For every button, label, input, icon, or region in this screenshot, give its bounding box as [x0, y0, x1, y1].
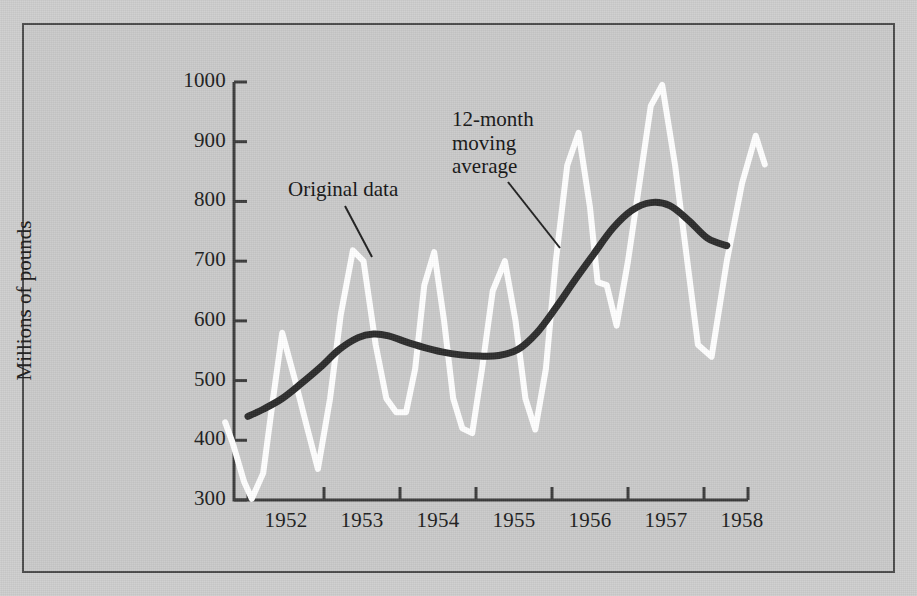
x-tick-label: 1956 [552, 508, 628, 533]
y-tick-label: 900 [142, 128, 226, 153]
x-tick-label: 1953 [324, 508, 400, 533]
y-tick-label: 700 [142, 247, 226, 272]
y-tick-label: 800 [142, 187, 226, 212]
leader-line-moving-average [508, 182, 560, 248]
y-tick-label: 1000 [142, 68, 226, 93]
annotation-original-data: Original data [288, 178, 398, 202]
y-tick-label: 500 [142, 367, 226, 392]
y-tick-label: 300 [142, 486, 226, 511]
y-tick-label: 600 [142, 307, 226, 332]
annotation-moving-average: 12-month moving average [452, 108, 534, 179]
x-tick-label: 1958 [704, 508, 780, 533]
x-tick-label: 1952 [248, 508, 324, 533]
figure-container: Millions of pounds 300400500600700800900… [0, 0, 917, 596]
y-axis-title: Millions of pounds [12, 191, 37, 411]
x-tick-label: 1955 [476, 508, 552, 533]
leader-line-original-data [345, 206, 372, 257]
y-tick-label: 400 [142, 426, 226, 451]
chart-plot-area [0, 0, 917, 596]
x-tick-label: 1957 [628, 508, 704, 533]
x-tick-label: 1954 [400, 508, 476, 533]
